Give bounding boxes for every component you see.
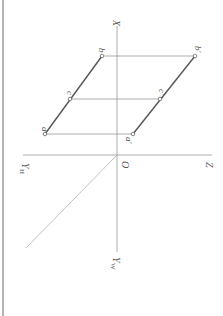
axis-label-yw: Y W (109, 257, 122, 270)
point-c-prime (158, 97, 162, 101)
label-c: c (65, 91, 75, 95)
point-a (43, 132, 47, 136)
label-a: a (40, 127, 50, 132)
point-b-prime (193, 54, 197, 58)
projection-diagram: a b c a′ b′ c′ X Z O Y H Y W (0, 0, 223, 316)
svg-text:H: H (18, 169, 26, 174)
axis-label-z: Z (204, 162, 215, 168)
label-a-prime: a′ (124, 137, 134, 145)
segment-a-prime-b-prime (133, 56, 195, 134)
svg-text:W: W (109, 263, 117, 270)
segment-ab (45, 56, 102, 134)
axis-label-x: X (111, 19, 122, 27)
axis-label-yh: Y H (18, 163, 31, 174)
label-b: b (97, 48, 107, 53)
point-c (68, 97, 72, 101)
label-c-prime: c′ (157, 89, 167, 96)
point-a-prime (131, 132, 135, 136)
label-b-prime: b′ (193, 46, 203, 54)
miter-line-45 (26, 155, 117, 248)
point-b (100, 54, 104, 58)
axis-label-origin: O (120, 161, 131, 168)
